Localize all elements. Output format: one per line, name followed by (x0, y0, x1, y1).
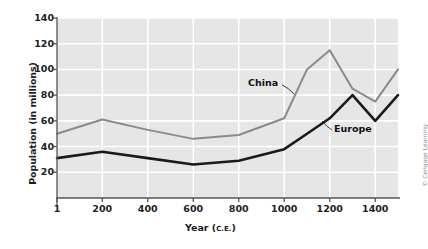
series-label-europe: Europe (334, 123, 372, 134)
series-label-china: China (248, 77, 278, 88)
plot-background (57, 18, 398, 198)
